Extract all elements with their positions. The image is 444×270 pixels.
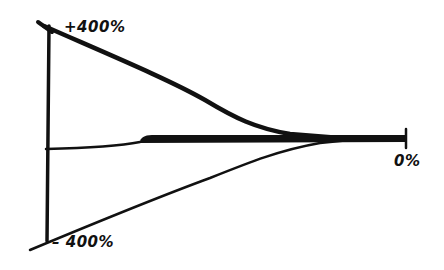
funnel-sketch	[0, 0, 444, 270]
baseline-thin	[46, 142, 140, 149]
vertical-axis	[47, 26, 49, 241]
label-plus-400: +400%	[64, 18, 125, 36]
upper-curve	[44, 26, 340, 138]
central-bar	[140, 135, 405, 143]
diagram-canvas: +400% – 400% 0%	[0, 0, 444, 270]
label-minus-400: – 400%	[52, 233, 114, 251]
label-zero: 0%	[394, 152, 420, 170]
